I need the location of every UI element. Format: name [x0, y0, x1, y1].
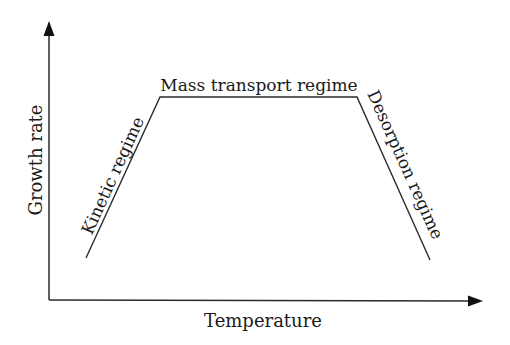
y-axis-arrow-icon — [44, 21, 55, 36]
x-axis-label: Temperature — [204, 310, 322, 331]
x-axis-arrow-icon — [468, 296, 483, 307]
y-axis-label: Growth rate — [25, 105, 46, 216]
desorption-regime-label: Desorption regime — [363, 87, 447, 242]
kinetic-regime-label: Kinetic regime — [77, 114, 148, 238]
growth-rate-diagram: Temperature Growth rate Kinetic regime M… — [0, 0, 510, 345]
mass-transport-regime-label: Mass transport regime — [160, 75, 357, 95]
x-axis — [49, 300, 470, 301]
